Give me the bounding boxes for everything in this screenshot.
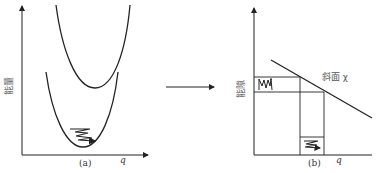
upper-parabola bbox=[56, 5, 130, 88]
panel-a: 能量 (a) q bbox=[3, 5, 148, 168]
lower-parabola bbox=[46, 72, 118, 147]
caption-b: (b) bbox=[308, 158, 321, 168]
panel-b: 能隙 斜面 χ (b) q bbox=[235, 8, 372, 168]
y-axis-label: 能隙 bbox=[235, 80, 246, 98]
diagram: 能量 (a) q 能隙 斜面 χ (b) q bbox=[0, 0, 376, 173]
horizontal-vibration-icon bbox=[304, 141, 320, 148]
vibrational-relaxation-icon bbox=[70, 129, 95, 141]
vertical-vibration-icon bbox=[259, 78, 272, 90]
x-axis-label: q bbox=[336, 155, 342, 165]
x-axis-label: q bbox=[120, 155, 126, 165]
slope-line bbox=[271, 60, 372, 118]
caption-a: (a) bbox=[79, 158, 91, 168]
y-axis-label: 能量 bbox=[3, 77, 14, 95]
slope-label: 斜面 χ bbox=[322, 71, 348, 82]
